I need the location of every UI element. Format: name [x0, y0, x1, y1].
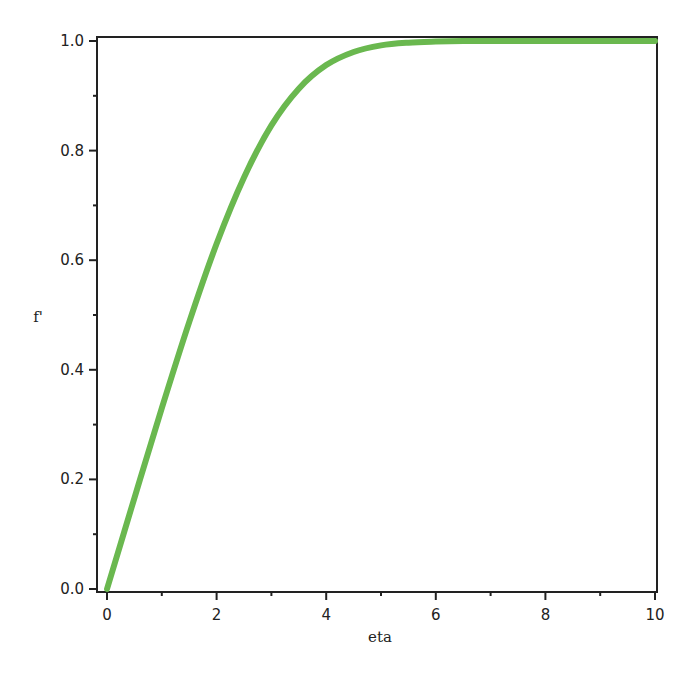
x-tick-label: 6: [431, 606, 441, 624]
x-tick-label: 10: [645, 606, 664, 624]
x-tick-label: 8: [541, 606, 551, 624]
y-tick-label: 0.4: [60, 361, 84, 379]
data-series-line: [107, 41, 655, 589]
x-axis-label: eta: [368, 628, 392, 646]
y-tick-label: 0.8: [60, 142, 84, 160]
x-tick-label: 4: [321, 606, 331, 624]
x-axis-ticks: 0246810: [102, 592, 664, 624]
x-tick-label: 0: [102, 606, 112, 624]
chart: 0.00.20.40.60.81.0 0246810 eta f': [0, 0, 691, 674]
plot-frame: [97, 37, 657, 592]
y-tick-label: 1.0: [60, 32, 84, 50]
x-tick-label: 2: [212, 606, 222, 624]
y-axis-label: f': [33, 308, 43, 326]
y-tick-label: 0.2: [60, 470, 84, 488]
y-tick-label: 0.0: [60, 580, 84, 598]
y-tick-label: 0.6: [60, 251, 84, 269]
y-axis-ticks: 0.00.20.40.60.81.0: [60, 32, 97, 598]
